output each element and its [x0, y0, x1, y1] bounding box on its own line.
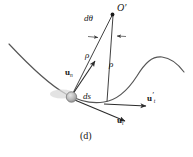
curve-path	[9, 44, 184, 103]
unit-tangent-prime-vector	[104, 104, 146, 106]
angle-tick-right-line	[117, 36, 126, 37]
radius-left-line	[72, 16, 113, 97]
center-dot-icon	[111, 13, 115, 17]
angle-element-label: dθ	[84, 14, 93, 23]
center-point-prime-mark: ′	[124, 2, 126, 13]
unit-tangent-label: ut	[117, 116, 124, 125]
angle-tick-left-line	[88, 37, 98, 38]
figure-caption: (d)	[80, 131, 92, 141]
unit-normal-subscript: n	[70, 72, 73, 78]
curvature-diagram	[0, 0, 193, 157]
unit-tangent-subscript: t	[122, 120, 124, 126]
center-point-label: O′	[117, 3, 126, 13]
radius-right-label: ρ	[109, 60, 113, 69]
sphere-point-icon	[66, 92, 76, 102]
unit-tangent-prime-label: u′t	[147, 94, 155, 103]
arc-element-label: ds	[83, 92, 91, 101]
unit-normal-label: un	[65, 68, 73, 77]
radius-left-label: ρ	[85, 51, 89, 60]
